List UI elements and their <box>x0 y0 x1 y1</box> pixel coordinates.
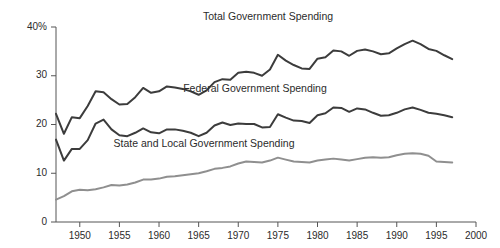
x-tick-label: 1980 <box>306 230 329 241</box>
government-spending-line-chart: 010203040%195019551960196519701975198019… <box>0 0 500 248</box>
y-tick-label: 10 <box>36 167 48 178</box>
y-tick-label: 20 <box>36 118 48 129</box>
y-axis-ticks: 010203040% <box>27 21 56 227</box>
x-tick-label: 1995 <box>425 230 448 241</box>
y-tick-label: 0 <box>41 216 47 227</box>
series-label-0: Total Government Spending <box>203 10 333 22</box>
chart-axes <box>56 27 476 222</box>
series-label-2: State and Local Government Spending <box>114 137 295 149</box>
x-tick-label: 1985 <box>346 230 369 241</box>
y-tick-label: 40% <box>27 21 47 32</box>
y-tick-label: 30 <box>36 69 48 80</box>
x-tick-label: 1955 <box>108 230 131 241</box>
series-group <box>56 41 452 200</box>
series-line-2 <box>56 153 452 199</box>
x-tick-label: 1965 <box>188 230 211 241</box>
series-line-1 <box>56 107 452 160</box>
x-axis-ticks: 1950195519601965197019751980198519901995… <box>69 222 488 241</box>
x-tick-label: 1975 <box>267 230 290 241</box>
series-label-1: Federal Government Spending <box>183 82 327 94</box>
x-tick-label: 1960 <box>148 230 171 241</box>
x-tick-label: 1990 <box>386 230 409 241</box>
x-tick-label: 1950 <box>69 230 92 241</box>
x-tick-label: 1970 <box>227 230 250 241</box>
x-tick-label: 2000 <box>465 230 488 241</box>
chart-container: 010203040%195019551960196519701975198019… <box>0 0 500 248</box>
axis-lines <box>56 27 476 222</box>
